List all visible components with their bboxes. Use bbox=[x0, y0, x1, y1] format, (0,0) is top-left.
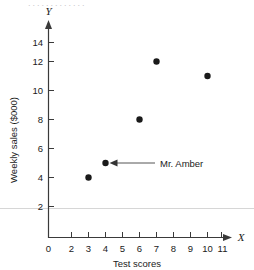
x-axis-ticks bbox=[72, 232, 222, 238]
annotation-arrowhead-icon bbox=[110, 160, 118, 167]
y-tick-label-4: 4 bbox=[38, 172, 43, 183]
data-point[interactable] bbox=[102, 160, 108, 166]
x-tick-label-8: 8 bbox=[171, 243, 176, 254]
x-axis bbox=[49, 234, 233, 241]
x-tick-label-4: 4 bbox=[103, 243, 108, 254]
x-axis-tick-labels: 0 2 3 4 5 6 7 8 9 10 11 bbox=[46, 243, 228, 254]
y-tick-label-8: 8 bbox=[38, 114, 43, 125]
x-axis-arrowhead bbox=[223, 234, 232, 241]
x-tick-label-0: 0 bbox=[46, 243, 51, 254]
y-axis-arrowhead bbox=[45, 20, 52, 29]
data-point[interactable] bbox=[153, 58, 159, 64]
annotation-mr-amber: Mr. Amber bbox=[110, 158, 204, 169]
x-tick-label-3: 3 bbox=[86, 243, 91, 254]
x-axis-title: Test scores bbox=[113, 258, 161, 269]
y-axis-ticks bbox=[49, 43, 55, 207]
data-point[interactable] bbox=[204, 73, 210, 79]
data-point[interactable] bbox=[85, 174, 91, 180]
y-axis-title: Weekly sales ($000) bbox=[8, 97, 19, 183]
y-axis bbox=[45, 20, 52, 238]
data-point[interactable] bbox=[136, 116, 142, 122]
y-axis-tick-labels: 2 4 6 8 10 12 14 bbox=[32, 37, 43, 212]
x-tick-label-5: 5 bbox=[120, 243, 125, 254]
y-axis-variable-name: Y bbox=[45, 5, 53, 17]
x-tick-label-11: 11 bbox=[218, 243, 228, 254]
y-tick-label-14: 14 bbox=[32, 37, 43, 48]
y-tick-label-12: 12 bbox=[32, 56, 43, 67]
x-tick-label-9: 9 bbox=[188, 243, 193, 254]
x-tick-label-6: 6 bbox=[137, 243, 142, 254]
chart-canvas: 2 4 6 8 10 12 14 0 2 3 4 5 bbox=[0, 0, 254, 270]
annotation-label: Mr. Amber bbox=[160, 158, 203, 169]
scatter-plot-figure: ............. 2 4 6 8 10 bbox=[0, 0, 254, 270]
x-tick-label-2: 2 bbox=[69, 243, 74, 254]
y-tick-label-2: 2 bbox=[38, 201, 43, 212]
x-tick-label-7: 7 bbox=[154, 243, 159, 254]
y-tick-label-10: 10 bbox=[32, 85, 43, 96]
x-axis-variable-name: X bbox=[237, 231, 246, 243]
x-tick-label-10: 10 bbox=[202, 243, 213, 254]
y-tick-label-6: 6 bbox=[38, 143, 43, 154]
